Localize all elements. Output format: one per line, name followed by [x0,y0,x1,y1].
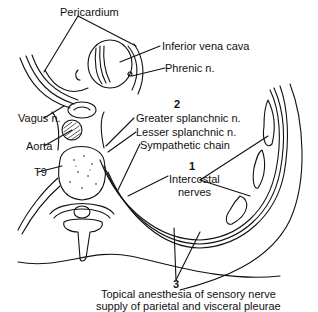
diagram-canvas: Pericardium Inferior vena cava Phrenic n… [0,0,318,312]
label-aorta: Aorta [26,140,52,152]
label-sympathetic-chain: Sympathetic chain [140,139,230,151]
label-pericardium: Pericardium [60,6,119,18]
label-lesser-splanchnic: Lesser splanchnic n. [136,126,236,138]
caption-line-1: Topical anesthesia of sensory nerve [101,288,261,300]
label-t9-vertebra: T9 [34,166,47,178]
marker-2: 2 [174,98,180,110]
label-greater-splanchnic: Greater splanchnic n. [136,112,241,124]
label-vagus-nerve: Vagus n. [18,112,61,124]
label-inferior-vena-cava: Inferior vena cava [162,40,249,52]
label-nerves: nerves [178,186,211,198]
marker-1: 1 [189,160,195,172]
label-phrenic-nerve: Phrenic n. [165,62,215,74]
label-intercostal: Intercostal [169,173,220,185]
thorax-cross-section-illustration [0,0,318,312]
caption-line-2: supply of parietal and visceral pleurae [96,300,266,312]
